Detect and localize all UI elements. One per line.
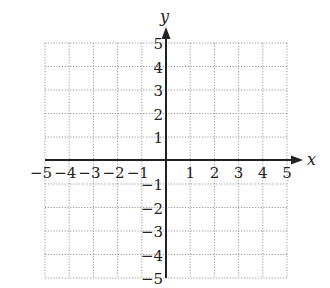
y-tick-label: −2 [141,200,163,218]
x-tick-label: 5 [282,164,292,182]
y-tick-labels: 54321−1−2−3−4−5 [141,35,163,288]
y-tick-label: −4 [141,247,163,265]
y-tick-label: 3 [153,82,163,100]
x-tick-label: 4 [258,164,268,182]
x-tick-label: 3 [234,164,244,182]
x-tick-label: −5 [30,164,52,182]
x-tick-label: −4 [54,164,76,182]
y-axis-label: y [159,7,170,26]
x-tick-label: −2 [103,164,125,182]
x-tick-label: 1 [185,164,195,182]
y-tick-label: −3 [141,223,163,241]
x-axis-label: x [307,150,316,169]
x-tick-label: −3 [78,164,100,182]
y-tick-label: −1 [141,176,163,194]
x-axis-arrow-icon [291,156,303,165]
x-tick-label: 2 [210,164,220,182]
y-tick-label: −5 [141,270,163,288]
y-tick-label: 5 [153,35,163,53]
y-tick-label: 2 [153,106,163,124]
y-tick-label: 4 [153,59,163,77]
coordinate-plane: x y −5−4−3−2−112345 54321−1−2−3−4−5 [0,0,330,288]
axes: x y [45,7,316,278]
y-tick-label: 1 [153,129,163,147]
